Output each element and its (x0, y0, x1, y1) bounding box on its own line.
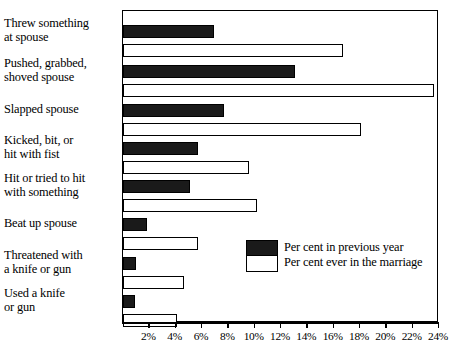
category-label: Beat up spouse (4, 217, 120, 231)
bar-previous-year (123, 142, 198, 155)
plot-area (122, 10, 438, 322)
category-label: Hit or tried to hitwith something (4, 172, 120, 199)
bar-previous-year (123, 104, 224, 117)
legend-label-previous-year: Per cent in previous year (284, 240, 403, 255)
category-label: Slapped spouse (4, 103, 120, 117)
bar-ever-in-marriage (123, 44, 343, 57)
category-label: Threatened witha knife or gun (4, 249, 120, 276)
x-axis-tick (148, 322, 149, 328)
category-label-line: shoved spouse (4, 71, 120, 85)
x-axis-tick (201, 322, 202, 328)
category-label-line: Pushed, grabbed, (4, 57, 120, 71)
category-label: Used a knifeor gun (4, 287, 120, 314)
category-label-line: Hit or tried to hit (4, 172, 120, 186)
x-axis-tick (359, 322, 360, 328)
x-axis-tick (227, 322, 228, 328)
bar-ever-in-marriage (123, 161, 249, 174)
x-axis-tick (175, 322, 176, 328)
bar-previous-year (123, 180, 190, 193)
x-axis-tick (333, 322, 334, 328)
bar-previous-year (123, 257, 136, 270)
category-label-line: at spouse (4, 31, 120, 45)
legend-label-ever-marriage: Per cent ever in the marriage (284, 255, 422, 270)
category-label: Pushed, grabbed,shoved spouse (4, 57, 120, 84)
category-label-line: Threw something (4, 17, 120, 31)
legend-swatch-previous-year (247, 241, 277, 256)
bar-ever-in-marriage (123, 276, 184, 289)
category-label-line: or gun (4, 301, 120, 315)
x-axis-tick (254, 322, 255, 328)
x-axis-tick (412, 322, 413, 328)
category-label-line: Kicked, bit, or (4, 134, 120, 148)
x-axis-tick (438, 322, 439, 328)
x-axis-tick (306, 322, 307, 328)
bar-ever-in-marriage (123, 237, 198, 250)
category-label: Kicked, bit, orhit with fist (4, 134, 120, 161)
bar-ever-in-marriage (123, 123, 361, 136)
bar-previous-year (123, 65, 295, 78)
category-label: Threw somethingat spouse (4, 17, 120, 44)
category-label-line: hit with fist (4, 148, 120, 162)
category-label-line: Slapped spouse (4, 103, 120, 117)
bar-ever-in-marriage (123, 199, 257, 212)
x-axis-tick (385, 322, 386, 328)
category-label-line: Beat up spouse (4, 217, 120, 231)
bar-previous-year (123, 295, 135, 308)
bar-ever-in-marriage (123, 84, 434, 97)
legend-swatch-box (246, 240, 278, 272)
bar-ever-in-marriage (123, 314, 177, 327)
bar-chart: Threw somethingat spousePushed, grabbed,… (0, 0, 455, 357)
x-axis-tick (280, 322, 281, 328)
category-label-line: with something (4, 186, 120, 200)
category-label-line: Threatened with (4, 249, 120, 263)
bar-previous-year (123, 25, 214, 38)
category-label-line: Used a knife (4, 287, 120, 301)
category-label-line: a knife or gun (4, 263, 120, 277)
x-axis-tick-label: 24% (423, 330, 453, 343)
legend-swatch-ever-marriage (247, 256, 277, 271)
bar-previous-year (123, 218, 147, 231)
